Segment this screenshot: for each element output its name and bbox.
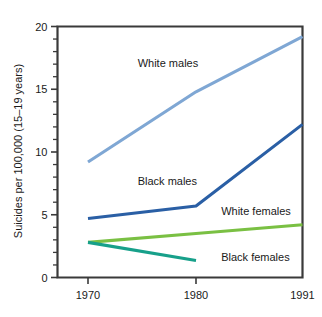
- series-label-black-females: Black females: [221, 251, 290, 263]
- series-label-white-females: White females: [221, 205, 291, 217]
- y-axis-tick-labels: 05101520: [35, 21, 47, 284]
- x-axis-tick-labels: 197019801991: [76, 289, 315, 301]
- y-axis-title: Suicides per 100,000 (15–19 years): [12, 64, 24, 238]
- y-axis-title-group: Suicides per 100,000 (15–19 years): [12, 64, 24, 238]
- y-tick-label-20: 20: [35, 21, 47, 33]
- series-line-white-males: [88, 37, 303, 162]
- y-tick-label-5: 5: [41, 209, 47, 221]
- series-line-white-females: [88, 225, 303, 243]
- y-tick-label-0: 0: [41, 272, 47, 284]
- data-series-group: [88, 37, 303, 261]
- x-tick-label-1970: 1970: [76, 289, 100, 301]
- series-label-black-males: Black males: [138, 175, 198, 187]
- chart-container: 05101520 197019801991 White malesBlack m…: [0, 0, 322, 317]
- y-tick-label-15: 15: [35, 83, 47, 95]
- series-label-white-males: White males: [138, 57, 199, 69]
- suicide-rate-line-chart: 05101520 197019801991 White malesBlack m…: [0, 0, 322, 317]
- x-tick-label-1980: 1980: [184, 289, 208, 301]
- series-line-black-females: [88, 242, 196, 260]
- y-tick-label-10: 10: [35, 146, 47, 158]
- x-tick-label-1991: 1991: [290, 289, 314, 301]
